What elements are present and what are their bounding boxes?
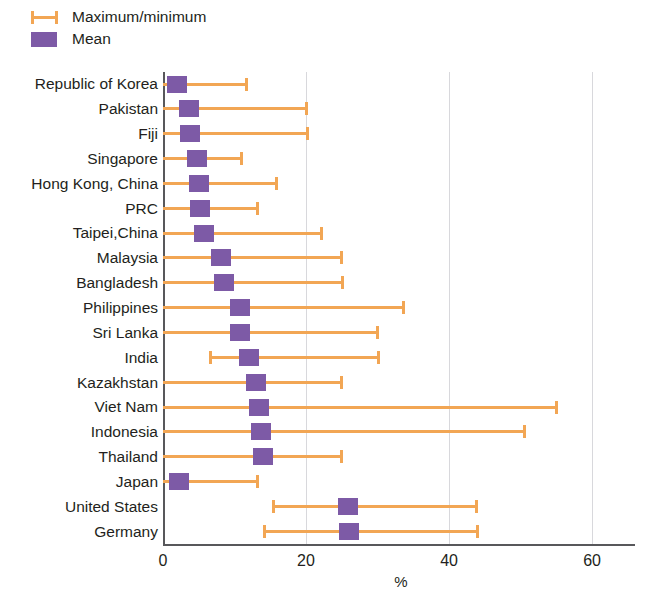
chart-row bbox=[163, 370, 635, 395]
maximum-cap bbox=[256, 202, 259, 215]
chart-row bbox=[163, 122, 635, 147]
maximum-cap bbox=[340, 251, 343, 264]
chart-row bbox=[163, 469, 635, 494]
legend-label-maximum-minimum: Maximum/minimum bbox=[62, 8, 206, 26]
mean-marker bbox=[169, 473, 189, 490]
chart-row bbox=[163, 445, 635, 470]
maximum-cap bbox=[555, 401, 558, 414]
maximum-cap bbox=[402, 301, 405, 314]
range-line bbox=[163, 306, 404, 309]
legend-item-maximum-minimum: Maximum/minimum bbox=[28, 6, 358, 28]
plot-area bbox=[163, 72, 635, 544]
y-axis-label: Singapore bbox=[3, 151, 158, 167]
y-axis-label: Viet Nam bbox=[3, 399, 158, 415]
y-axis-label: Bangladesh bbox=[3, 275, 158, 291]
y-axis-label: Indonesia bbox=[3, 424, 158, 440]
mean-marker bbox=[190, 200, 210, 217]
y-axis-label: Hong Kong, China bbox=[3, 176, 158, 192]
maximum-cap bbox=[256, 475, 259, 488]
mean-marker bbox=[251, 423, 271, 440]
y-axis-label: Republic of Korea bbox=[3, 76, 158, 92]
x-tick-label: 20 bbox=[276, 551, 336, 571]
y-axis-label: United States bbox=[3, 499, 158, 515]
mean-marker bbox=[214, 274, 234, 291]
chart-row bbox=[163, 320, 635, 345]
y-axis-label: India bbox=[3, 350, 158, 366]
mean-marker bbox=[230, 324, 250, 341]
maximum-cap bbox=[305, 102, 308, 115]
range-line bbox=[163, 281, 343, 284]
mean-marker bbox=[211, 249, 231, 266]
y-axis-label: Kazakhstan bbox=[3, 375, 158, 391]
mean-marker bbox=[187, 150, 207, 167]
mean-marker bbox=[339, 523, 359, 540]
maximum-cap bbox=[245, 78, 248, 91]
maximum-cap bbox=[475, 500, 478, 513]
chart-row bbox=[163, 196, 635, 221]
maximum-cap bbox=[306, 127, 309, 140]
y-axis-label: PRC bbox=[3, 201, 158, 217]
maximum-cap bbox=[340, 376, 343, 389]
x-axis-title: % bbox=[0, 573, 652, 590]
x-axis-line bbox=[163, 544, 635, 546]
chart-row bbox=[163, 519, 635, 544]
x-tick-label: 0 bbox=[133, 551, 193, 571]
chart-row bbox=[163, 72, 635, 97]
chart-row bbox=[163, 97, 635, 122]
chart-row bbox=[163, 494, 635, 519]
minimum-cap bbox=[272, 500, 275, 513]
range-line bbox=[163, 331, 378, 334]
mean-marker bbox=[180, 125, 200, 142]
chart-row bbox=[163, 271, 635, 296]
mean-marker bbox=[189, 175, 209, 192]
range-line bbox=[163, 207, 258, 210]
mean-marker bbox=[253, 448, 273, 465]
chart-row bbox=[163, 395, 635, 420]
y-axis-label: Japan bbox=[3, 474, 158, 490]
y-axis-label: Malaysia bbox=[3, 250, 158, 266]
range-line bbox=[163, 232, 322, 235]
chart-row bbox=[163, 246, 635, 271]
chart-row bbox=[163, 345, 635, 370]
y-axis-label: Thailand bbox=[3, 449, 158, 465]
minimum-cap bbox=[263, 525, 266, 538]
chart-row bbox=[163, 296, 635, 321]
legend-item-mean: Mean bbox=[28, 28, 358, 50]
x-tick-label: 40 bbox=[419, 551, 479, 571]
mean-marker bbox=[338, 498, 358, 515]
range-line bbox=[163, 256, 342, 259]
y-axis-label: Pakistan bbox=[3, 101, 158, 117]
y-axis-label: Philippines bbox=[3, 300, 158, 316]
x-axis-title-text: % bbox=[244, 573, 407, 590]
mean-marker bbox=[167, 76, 187, 93]
x-tick-label: 60 bbox=[562, 551, 622, 571]
mean-marker bbox=[239, 349, 259, 366]
chart-row bbox=[163, 147, 635, 172]
maximum-cap bbox=[523, 425, 526, 438]
chart-row bbox=[163, 171, 635, 196]
minimum-cap bbox=[209, 351, 212, 364]
y-axis-label: Germany bbox=[3, 524, 158, 540]
mean-marker bbox=[230, 299, 250, 316]
legend-label-mean: Mean bbox=[62, 30, 111, 48]
maximum-cap bbox=[377, 351, 380, 364]
maximum-cap bbox=[340, 450, 343, 463]
range-line bbox=[263, 530, 478, 533]
y-axis-label: Sri Lanka bbox=[3, 325, 158, 341]
maximum-cap bbox=[376, 326, 379, 339]
maximum-cap bbox=[320, 227, 323, 240]
maximum-cap bbox=[275, 177, 278, 190]
mean-marker bbox=[179, 100, 199, 117]
maximum-cap bbox=[476, 525, 479, 538]
mean-marker bbox=[194, 225, 214, 242]
chart-row bbox=[163, 420, 635, 445]
y-axis-category-labels: Republic of KoreaPakistanFijiSingaporeHo… bbox=[0, 72, 158, 544]
range-line bbox=[163, 430, 525, 433]
range-line bbox=[272, 505, 477, 508]
mean-marker bbox=[246, 374, 266, 391]
y-axis-label: Taipei,China bbox=[3, 225, 158, 241]
maximum-cap bbox=[341, 276, 344, 289]
range-line bbox=[209, 356, 378, 359]
maximum-cap bbox=[240, 152, 243, 165]
chart-legend: Maximum/minimum Mean bbox=[28, 6, 358, 50]
